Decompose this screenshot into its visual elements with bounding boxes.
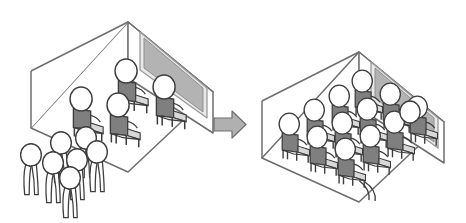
transition-arrow (214, 111, 246, 138)
standing-person (21, 144, 42, 195)
full-room-panel (262, 52, 444, 202)
waiting-crowd (21, 127, 108, 218)
sparse-room-panel (21, 22, 213, 218)
seated-person (400, 101, 420, 123)
standing-person (60, 167, 81, 218)
illustration-canvas (0, 0, 466, 223)
